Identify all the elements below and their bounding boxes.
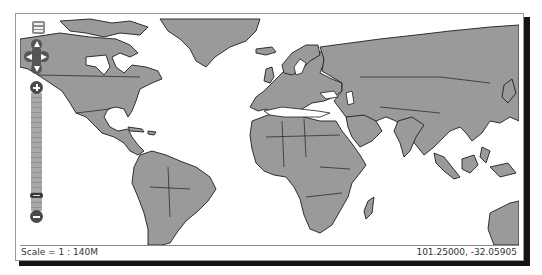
mediterranean-sea (264, 107, 330, 117)
sumatra (434, 153, 460, 179)
africa (250, 113, 366, 233)
pan-center (32, 49, 41, 65)
world-map[interactable] (20, 17, 519, 245)
new-guinea (490, 163, 516, 177)
arctic-islands (60, 19, 148, 37)
madagascar (364, 197, 374, 219)
uk (264, 67, 274, 83)
pan-right-arrow-icon (41, 54, 47, 60)
australia (488, 201, 519, 245)
pan-down-arrow-icon (34, 66, 40, 72)
south-america (132, 151, 216, 245)
status-bar: Scale = 1 : 140M 101.25000, -32.05905 (20, 246, 519, 260)
philippines (480, 147, 490, 163)
layer-switcher-button[interactable] (32, 21, 45, 34)
pan-up-arrow-icon (34, 41, 40, 47)
zoom-in-button[interactable] (30, 81, 43, 94)
map-viewport[interactable] (20, 17, 519, 246)
mouse-coordinates: 101.25000, -32.05905 (416, 247, 517, 257)
asia (320, 25, 519, 155)
greenland (160, 19, 260, 67)
borneo (462, 155, 478, 173)
scale-label: Scale = 1 : 140M (21, 247, 98, 257)
zoom-slider-handle[interactable] (30, 193, 43, 198)
zoom-bar (30, 81, 43, 223)
map-frame: Scale = 1 : 140M 101.25000, -32.05905 (15, 13, 524, 261)
zoom-out-button[interactable] (30, 210, 43, 223)
pan-control (24, 39, 50, 79)
iceland (256, 47, 276, 55)
